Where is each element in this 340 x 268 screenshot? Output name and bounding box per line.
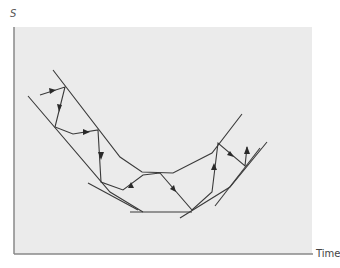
lower-boundary-line [28, 96, 143, 212]
lower-right-boundary-line [180, 142, 267, 218]
arrow-icon [57, 104, 62, 112]
x-axis-label: Time [316, 248, 340, 259]
upper-boundary-line [53, 70, 242, 173]
right-boundary-line [215, 148, 260, 206]
arrow-icon [244, 146, 250, 154]
arrow-icon [211, 163, 217, 170]
arrow-icon [49, 88, 56, 94]
y-axis-label: S [10, 8, 16, 19]
arrow-icon [83, 129, 90, 135]
arrow-icon [98, 152, 104, 160]
